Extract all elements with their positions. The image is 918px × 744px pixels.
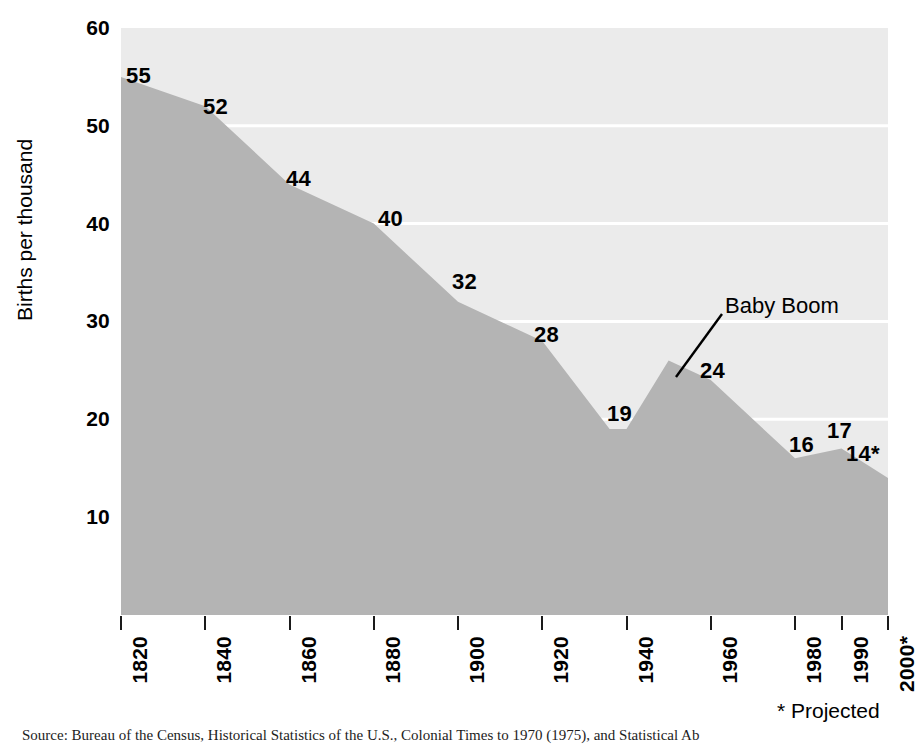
x-tick-label-1940: 1940 xyxy=(635,636,656,684)
y-tick-label: 30 xyxy=(70,310,110,331)
x-tick-label-1840: 1840 xyxy=(213,636,234,684)
data-label-1990: 17 xyxy=(827,420,852,442)
x-tick-label-1820: 1820 xyxy=(129,636,150,684)
data-label-1960: 24 xyxy=(700,360,725,382)
data-label-1840: 52 xyxy=(203,96,228,118)
projected-footnote: * Projected xyxy=(777,700,880,721)
x-tick-mark-1920 xyxy=(541,616,543,630)
data-label-1860: 44 xyxy=(286,168,311,190)
source-caption: Source: Bureau of the Census, Historical… xyxy=(22,727,699,744)
baby-boom-annotation-label: Baby Boom xyxy=(725,295,839,317)
y-tick-label: 40 xyxy=(70,213,110,234)
x-tick-label-2000: 2000* xyxy=(896,636,917,692)
data-label-1820: 55 xyxy=(126,65,151,87)
y-tick-label: 50 xyxy=(70,115,110,136)
x-tick-label-1960: 1960 xyxy=(719,636,740,684)
y-tick-label: 10 xyxy=(70,506,110,527)
data-label-1880: 40 xyxy=(378,208,403,230)
x-tick-label-1920: 1920 xyxy=(550,636,571,684)
data-label-1980: 16 xyxy=(789,434,814,456)
data-label-2000: 14* xyxy=(846,443,880,465)
x-tick-mark-1940 xyxy=(626,616,628,630)
x-tick-mark-1860 xyxy=(289,616,291,630)
x-tick-label-1880: 1880 xyxy=(382,636,403,684)
y-axis-title: Births per thousand xyxy=(14,139,35,321)
x-tick-mark-1900 xyxy=(457,616,459,630)
area-series-svg xyxy=(121,28,888,615)
x-tick-label-1860: 1860 xyxy=(298,636,319,684)
data-label-1900: 32 xyxy=(452,271,477,293)
x-tick-label-1900: 1900 xyxy=(466,636,487,684)
x-tick-mark-2000 xyxy=(887,616,889,630)
x-tick-mark-1840 xyxy=(204,616,206,630)
x-tick-mark-1820 xyxy=(120,616,122,630)
y-tick-label: 60 xyxy=(70,17,110,38)
data-label-1920: 28 xyxy=(534,324,559,346)
x-tick-mark-1880 xyxy=(373,616,375,630)
y-tick-label: 20 xyxy=(70,408,110,429)
data-label-1940: 19 xyxy=(607,403,632,425)
plot-area xyxy=(121,28,888,615)
x-tick-label-1980: 1980 xyxy=(803,636,824,684)
x-tick-mark-1960 xyxy=(710,616,712,630)
x-tick-mark-1990 xyxy=(841,616,843,630)
x-tick-mark-1980 xyxy=(794,616,796,630)
y-axis-line xyxy=(120,28,121,615)
area-fill xyxy=(121,77,888,615)
x-tick-label-1990: 1990 xyxy=(850,636,871,684)
